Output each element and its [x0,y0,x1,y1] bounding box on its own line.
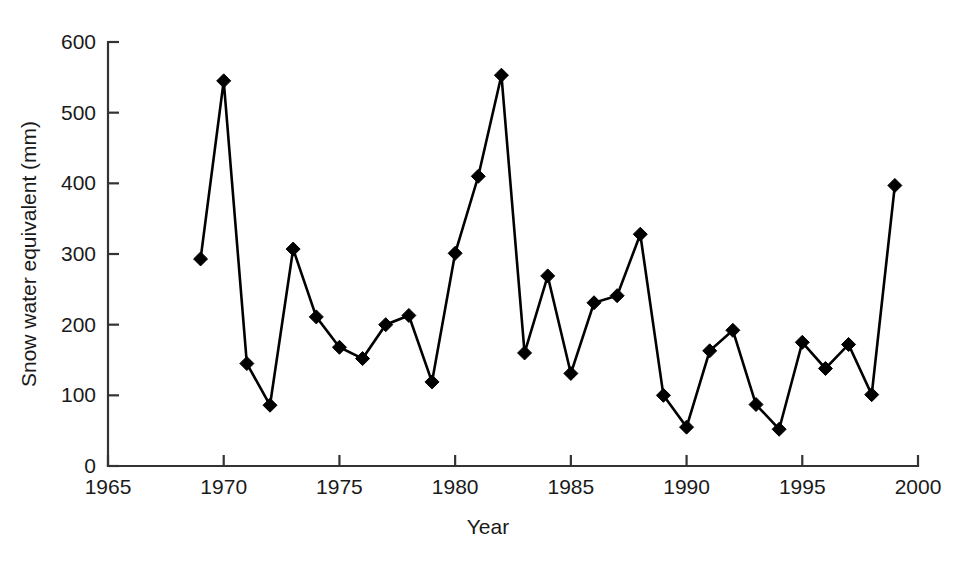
x-tick-label: 2000 [895,475,942,498]
data-point-marker [194,252,208,266]
data-point-marker [448,246,462,260]
y-tick-label: 0 [84,454,96,477]
data-point-marker [587,296,601,310]
data-point-marker [217,74,231,88]
y-tick-label: 400 [61,171,96,194]
data-point-marker [633,227,647,241]
y-axis-tick-marks [108,42,119,466]
y-tick-label: 200 [61,313,96,336]
x-axis-tick-labels: 19651970197519801985199019952000 [85,475,942,498]
line-chart: 0100200300400500600 19651970197519801985… [0,0,976,563]
x-tick-label: 1975 [316,475,363,498]
y-tick-label: 300 [61,242,96,265]
data-point-marker [541,269,555,283]
x-tick-label: 1970 [200,475,247,498]
y-tick-label: 100 [61,383,96,406]
data-point-marker [402,308,416,322]
y-tick-label: 500 [61,101,96,124]
data-point-marker [425,375,439,389]
data-point-marker [610,289,624,303]
data-point-marker [240,357,254,371]
data-point-marker [564,366,578,380]
data-series-line [201,75,895,429]
x-axis-title: Year [467,515,509,538]
x-tick-label: 1995 [779,475,826,498]
data-point-marker [518,346,532,360]
x-tick-label: 1985 [547,475,594,498]
x-axis-tick-marks [108,455,918,466]
data-point-marker [494,68,508,82]
y-axis-title: Snow water equivalent (mm) [17,121,40,387]
y-tick-label: 600 [61,30,96,53]
data-point-marker [263,398,277,412]
x-tick-label: 1990 [663,475,710,498]
chart-figure: 0100200300400500600 19651970197519801985… [0,0,976,563]
data-point-marker [471,169,485,183]
x-tick-label: 1980 [432,475,479,498]
data-point-marker [286,242,300,256]
data-point-marker [865,388,879,402]
data-point-marker [888,178,902,192]
data-point-markers [194,68,902,436]
x-tick-label: 1965 [85,475,132,498]
y-axis-tick-labels: 0100200300400500600 [61,30,96,477]
